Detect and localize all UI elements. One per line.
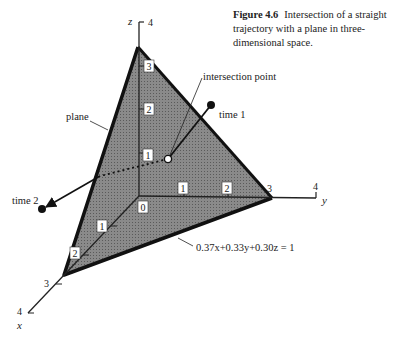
svg-text:2: 2 [225,183,230,194]
time2-label: time 2 [12,195,39,206]
svg-text:1: 1 [100,221,105,232]
x-label-4: 4 [17,306,22,317]
origin-label: 0 [138,201,148,213]
z-label-1: 1 [143,149,153,161]
y-label-4: 4 [313,181,318,192]
x-label-3: 3 [44,278,49,289]
z-label-2: 2 [144,103,154,115]
svg-text:1: 1 [181,183,186,194]
equation-leader [178,238,193,246]
x-label-2: 2 [70,247,80,259]
time1-point [207,101,215,109]
y-label-3: 3 [267,183,272,194]
z-label-3: 3 [144,60,154,72]
plane-label: plane [66,111,89,122]
x-label-1: 1 [97,220,107,232]
svg-text:0: 0 [141,202,146,213]
y-label-1: 1 [178,182,188,194]
y-label-2: 2 [222,182,232,194]
diagram: 3 2 1 1 2 0 1 2 4 z 3 4 y 3 4 x intersec… [0,0,414,348]
time2-point [38,205,46,213]
svg-text:3: 3 [147,61,152,72]
x-axis-label: x [16,319,22,331]
intersection-point [164,155,171,162]
z-label-4: 4 [148,17,153,28]
y-axis-label: y [321,194,327,206]
equation-label: 0.37x+0.33y+0.30z = 1 [196,242,295,253]
intersection-label: intersection point [203,71,276,82]
svg-text:1: 1 [146,150,151,161]
plane-leader [90,121,108,130]
time1-label: time 1 [219,109,246,120]
svg-text:2: 2 [147,104,152,115]
z-axis-label: z [127,15,133,27]
svg-text:2: 2 [73,248,78,259]
